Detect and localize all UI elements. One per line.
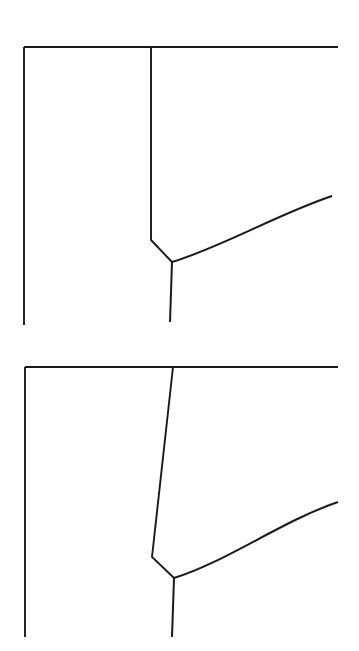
panel-top: [24, 47, 338, 325]
panel-bottom-lower-stem: [172, 578, 174, 637]
panel-top-curved-boundary: [172, 196, 332, 262]
panel-bottom-curved-boundary: [174, 502, 338, 578]
panel-bottom: [25, 367, 338, 637]
figure-root: Grain boundary triple junction line draw…: [0, 0, 359, 651]
panel-top-lower-stem: [170, 262, 172, 322]
line-figure-canvas: [0, 0, 359, 651]
panel-bottom-inclined-boundary: [152, 367, 174, 578]
panel-top-vertical-boundary: [151, 47, 172, 262]
